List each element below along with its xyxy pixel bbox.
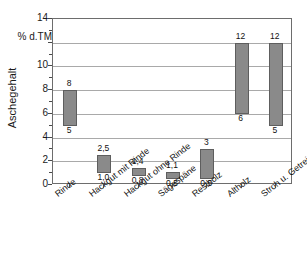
ash-content-range-chart: % d.TM Aschegehalt 852,51,01,40,81,10,53… — [0, 0, 307, 256]
gridline — [53, 138, 291, 139]
y-axis-tick-label: 4 — [4, 131, 48, 142]
y-axis-tick — [48, 113, 52, 114]
y-axis-tick — [48, 65, 52, 66]
bar-min-value-label: 5 — [260, 126, 290, 135]
y-axis-minor-tick — [49, 30, 52, 31]
y-axis-tick-label: 0 — [4, 178, 48, 189]
bar-max-value-label: 2,5 — [88, 144, 118, 153]
y-axis-tick — [48, 42, 52, 43]
bar-min-value-label: 5 — [54, 126, 84, 135]
bar-max-value-label: 12 — [226, 32, 256, 41]
y-axis-minor-tick — [49, 54, 52, 55]
gridline — [53, 66, 291, 67]
y-axis-minor-tick — [49, 172, 52, 173]
bar — [63, 90, 77, 126]
x-axis-tick — [138, 184, 139, 188]
x-axis-tick — [241, 184, 242, 188]
bar — [235, 43, 249, 114]
x-axis-tick — [69, 184, 70, 188]
bar-max-value-label: 12 — [260, 32, 290, 41]
y-axis-tick — [48, 89, 52, 90]
x-axis-tick — [275, 184, 276, 188]
y-axis-tick — [48, 160, 52, 161]
y-axis-minor-tick — [49, 101, 52, 102]
bar — [269, 43, 283, 126]
bar-min-value-label: 6 — [226, 114, 256, 123]
gridline — [53, 90, 291, 91]
bar — [97, 155, 111, 173]
y-axis-tick-label: 2 — [4, 154, 48, 165]
y-axis-tick — [48, 137, 52, 138]
y-axis-minor-tick — [49, 125, 52, 126]
y-axis-tick-label: 10 — [4, 59, 48, 70]
bar-max-value-label: 3 — [191, 138, 221, 147]
y-axis-minor-tick — [49, 77, 52, 78]
gridline — [53, 43, 291, 44]
y-axis-tick-label: 8 — [4, 83, 48, 94]
x-axis-tick — [103, 184, 104, 188]
y-axis-minor-tick — [49, 148, 52, 149]
y-axis-tick — [48, 18, 52, 19]
x-axis-tick — [206, 184, 207, 188]
y-axis-tick-label: 14 — [4, 12, 48, 23]
bar-max-value-label: 8 — [54, 79, 84, 88]
x-axis-tick — [172, 184, 173, 188]
y-axis-tick — [48, 184, 52, 185]
y-axis-tick-label: 6 — [4, 107, 48, 118]
